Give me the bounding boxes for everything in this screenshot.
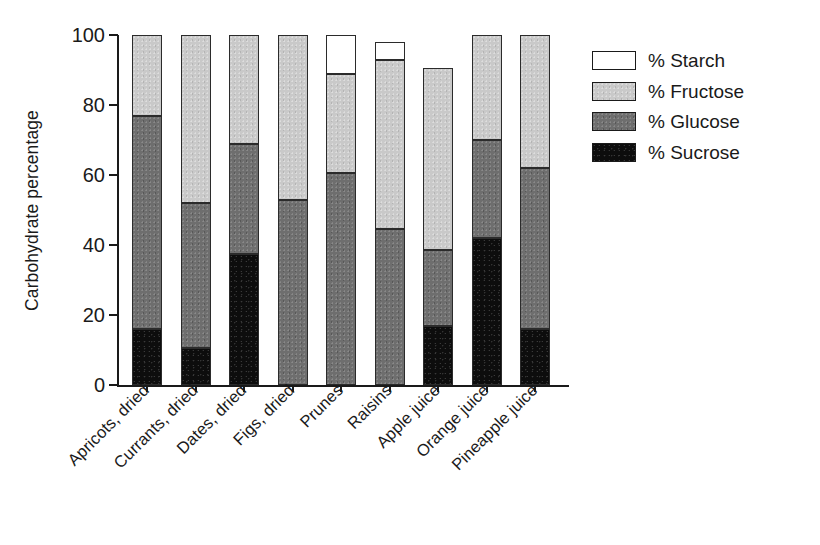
- segment-glucose: [375, 229, 405, 385]
- bar-prunes[interactable]: [326, 35, 356, 385]
- legend-swatch-sucrose: [592, 143, 636, 162]
- segment-fructose: [181, 35, 211, 203]
- y-tick-label-40: 40: [83, 235, 105, 255]
- segment-fructose: [229, 35, 259, 144]
- segment-glucose: [423, 250, 453, 325]
- segment-sucrose: [423, 326, 453, 386]
- segment-fructose: [326, 74, 356, 174]
- plot-area: 020406080100: [118, 35, 568, 385]
- bar-apricots-dried[interactable]: [132, 35, 162, 385]
- segment-glucose: [520, 168, 550, 329]
- segment-fructose: [472, 35, 502, 140]
- legend-label: % Sucrose: [648, 143, 740, 162]
- legend-item-fructose[interactable]: % Fructose: [592, 78, 807, 105]
- bar-pineapple-juice[interactable]: [520, 35, 550, 385]
- segment-fructose: [423, 68, 453, 250]
- segment-glucose: [472, 140, 502, 238]
- bar-figs-dried[interactable]: [278, 35, 308, 385]
- segment-starch: [375, 42, 405, 60]
- legend-item-sucrose[interactable]: % Sucrose: [592, 139, 807, 166]
- bar-currants-dried[interactable]: [181, 35, 211, 385]
- legend-label: % Glucose: [648, 112, 740, 131]
- y-tick-100: [109, 34, 118, 36]
- segment-fructose: [278, 35, 308, 200]
- legend-item-starch[interactable]: % Starch: [592, 47, 807, 74]
- segment-sucrose: [229, 254, 259, 385]
- y-tick-40: [109, 244, 118, 246]
- x-axis-label: Pineapple juice: [447, 381, 541, 475]
- stacked-bar-chart: Carbohydrate percentage 020406080100 Apr…: [0, 0, 820, 545]
- segment-glucose: [229, 144, 259, 254]
- y-tick-label-60: 60: [83, 165, 105, 185]
- bar-raisins[interactable]: [375, 35, 405, 385]
- segment-fructose: [375, 60, 405, 230]
- legend-swatch-starch: [592, 51, 636, 70]
- legend-swatch-glucose: [592, 112, 636, 131]
- segment-sucrose: [181, 348, 211, 385]
- x-axis-label: Apricots, dried: [64, 381, 153, 470]
- segment-fructose: [132, 35, 162, 116]
- bar-dates-dried[interactable]: [229, 35, 259, 385]
- legend-label: % Starch: [648, 51, 725, 70]
- y-tick-20: [109, 314, 118, 316]
- bar-apple-juice[interactable]: [423, 35, 453, 385]
- y-tick-label-0: 0: [94, 375, 105, 395]
- x-axis-label: Currants, dried: [110, 381, 202, 473]
- segment-sucrose: [132, 329, 162, 385]
- y-tick-60: [109, 174, 118, 176]
- legend-item-glucose[interactable]: % Glucose: [592, 108, 807, 135]
- segment-glucose: [132, 116, 162, 330]
- segment-starch: [326, 35, 356, 74]
- bar-orange-juice[interactable]: [472, 35, 502, 385]
- segment-glucose: [181, 203, 211, 348]
- y-tick-80: [109, 104, 118, 106]
- y-tick-label-80: 80: [83, 95, 105, 115]
- y-axis-title: Carbohydrate percentage: [22, 61, 43, 361]
- y-tick-label-20: 20: [83, 305, 105, 325]
- chart-legend: % Starch% Fructose% Glucose% Sucrose: [592, 47, 807, 169]
- segment-glucose: [326, 173, 356, 385]
- segment-sucrose: [472, 238, 502, 385]
- legend-swatch-fructose: [592, 82, 636, 101]
- segment-sucrose: [520, 329, 550, 385]
- legend-label: % Fructose: [648, 82, 744, 101]
- x-axis-label: Prunes: [296, 381, 347, 432]
- y-tick-0: [109, 384, 118, 386]
- y-tick-label-100: 100: [72, 25, 105, 45]
- segment-fructose: [520, 35, 550, 168]
- segment-glucose: [278, 200, 308, 386]
- y-axis-line: [117, 35, 119, 386]
